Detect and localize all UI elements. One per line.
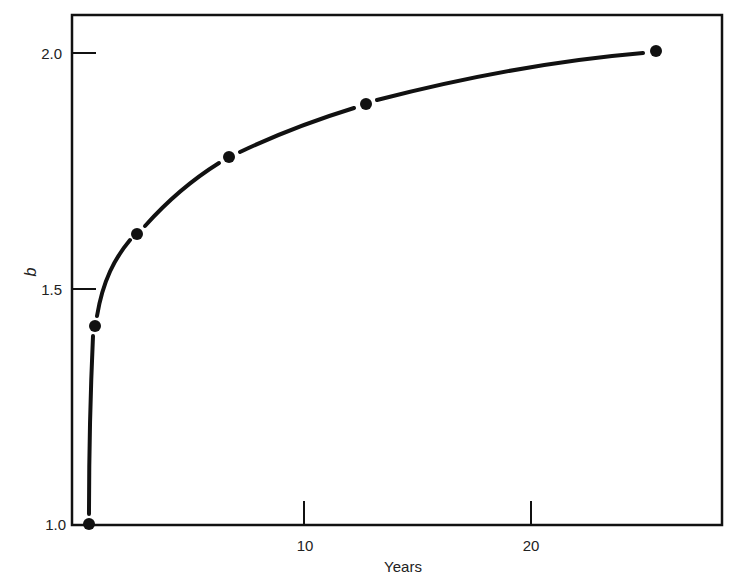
y-axis-title: b — [22, 267, 39, 276]
curve-segment-1 — [89, 336, 93, 514]
data-point-5 — [360, 98, 372, 110]
curve-segment-5 — [377, 53, 643, 100]
data-point-4 — [223, 151, 235, 163]
x-tick-label-10: 10 — [297, 537, 314, 554]
curve-segment-3 — [145, 163, 219, 226]
x-axis-title: Years — [384, 558, 422, 575]
curve-segment-4 — [240, 108, 354, 152]
data-curve — [89, 53, 643, 514]
data-point-6 — [650, 45, 662, 57]
y-tick-label-2-0: 2.0 — [41, 45, 62, 62]
data-point-3 — [131, 228, 143, 240]
x-tick-label-20: 20 — [523, 537, 540, 554]
y-axis: 2.0 1.5 1.0 b — [22, 45, 96, 533]
curve-segment-2 — [97, 240, 130, 316]
x-axis: 10 20 Years — [297, 501, 540, 575]
plot-frame — [72, 15, 722, 525]
data-point-1 — [83, 518, 95, 530]
chart: 2.0 1.5 1.0 b 10 20 Years — [0, 0, 738, 584]
data-points — [83, 45, 662, 530]
y-tick-label-1-5: 1.5 — [41, 281, 62, 298]
y-tick-label-1-0: 1.0 — [45, 516, 66, 533]
data-point-2 — [89, 320, 101, 332]
